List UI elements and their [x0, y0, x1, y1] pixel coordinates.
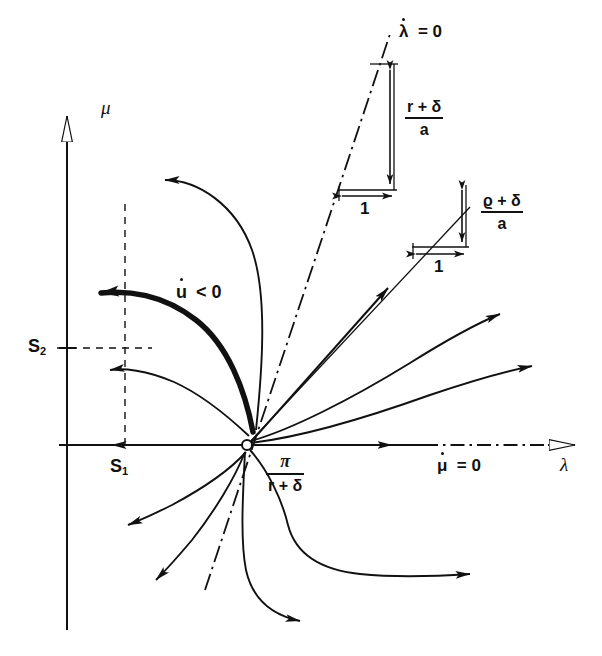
u-dot-negative-label: u < 0	[176, 283, 222, 301]
unstable-arm-group	[247, 207, 470, 445]
mu-axis-label: μ	[101, 98, 111, 117]
steep-slope-triangle	[338, 64, 398, 201]
steep-slope-denominator: a	[405, 120, 443, 138]
phase-diagram-canvas	[0, 0, 602, 656]
threshold-s1-base: S	[110, 456, 122, 476]
saddle-point-fraction-bar	[266, 473, 304, 475]
trajectories-group	[101, 180, 532, 621]
shallow-slope-run-label: 1	[434, 258, 443, 275]
threshold-s2-base: S	[28, 336, 40, 356]
mu-dot-zero-equality: = 0	[452, 456, 481, 475]
trajectory-stable-arm-bold	[101, 292, 253, 432]
trajectory-right-upper	[251, 314, 500, 441]
steep-slope-fraction-bar	[405, 117, 443, 119]
trajectory-right-lower	[250, 366, 532, 443]
shallow-slope-numerator: ϱ + δ	[481, 192, 523, 210]
saddle-point-numerator: π	[266, 452, 304, 472]
steep-slope-run-label: 1	[360, 200, 369, 217]
trajectory-lower-left-1	[128, 452, 246, 525]
threshold-guides	[57, 204, 152, 445]
threshold-s2-label: S2	[28, 337, 46, 357]
lambda-dot-zero-label: λ = 0	[399, 23, 442, 40]
threshold-s1-label: S1	[110, 457, 128, 477]
lambda-axis-label: λ	[560, 455, 568, 474]
steep-slope-fraction: r + δ a	[405, 98, 443, 139]
unstable-arm-trajectory-arrow	[250, 288, 388, 443]
shallow-slope-denominator: a	[481, 214, 523, 232]
steep-slope-numerator: r + δ	[405, 98, 443, 116]
mu-dot-symbol: μ	[437, 457, 447, 474]
shallow-slope-fraction: ϱ + δ a	[481, 192, 523, 233]
lambda-dot-zero-line	[205, 31, 391, 590]
mu-dot-zero-label: μ = 0	[437, 457, 481, 474]
saddle-point-fraction: π r + δ	[266, 452, 304, 495]
u-dot-negative-rest: < 0	[196, 282, 222, 302]
threshold-s2-subscript: 2	[40, 345, 46, 357]
threshold-s1-subscript: 1	[122, 465, 128, 477]
shallow-slope-fraction-bar	[481, 211, 523, 213]
lambda-dot-symbol: λ	[399, 23, 408, 40]
saddle-point-marker	[242, 440, 252, 450]
shallow-slope-triangle	[412, 185, 469, 259]
phase-diagram-figure: μ λ λ = 0 μ = 0 u < 0 S2 S1 r + δ a ϱ + …	[0, 0, 602, 656]
trajectory-lower-left-2	[156, 452, 245, 580]
saddle-point-denominator: r + δ	[266, 476, 304, 494]
trajectory-upper-left	[165, 180, 262, 430]
u-dot-symbol: u	[176, 283, 187, 301]
lambda-dot-zero-group	[205, 31, 391, 590]
trajectory-mid-left	[110, 369, 249, 436]
lambda-dot-zero-equality: = 0	[413, 22, 442, 41]
